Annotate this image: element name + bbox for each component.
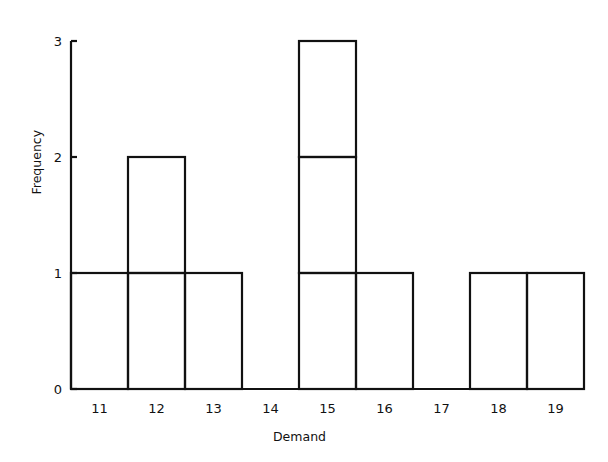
bar-unit-box — [299, 157, 356, 273]
x-tick-label: 13 — [205, 401, 222, 416]
bar-unit-box — [527, 273, 584, 389]
x-tick-label: 12 — [148, 401, 165, 416]
bar-unit-box — [299, 273, 356, 389]
x-tick-labels-group: 111213141516171819 — [91, 401, 564, 416]
y-axis-title: Frequency — [29, 129, 44, 194]
x-tick-label: 16 — [376, 401, 393, 416]
bar-unit-box — [128, 273, 185, 389]
bar-unit-box — [185, 273, 242, 389]
x-axis-title: Demand — [273, 429, 326, 444]
x-tick-label: 18 — [490, 401, 507, 416]
bar-unit-box — [71, 273, 128, 389]
x-tick-label: 11 — [91, 401, 108, 416]
bar-unit-box — [356, 273, 413, 389]
y-ticks-group: 0123 — [54, 34, 77, 397]
histogram-chart: 0123 111213141516171819 Demand Frequency — [0, 0, 608, 462]
x-tick-label: 15 — [319, 401, 336, 416]
bar-unit-box — [299, 41, 356, 157]
bar-unit-box — [470, 273, 527, 389]
bars-group — [71, 41, 584, 389]
y-tick-label: 2 — [54, 150, 62, 165]
x-tick-label: 14 — [262, 401, 279, 416]
x-tick-label: 17 — [433, 401, 450, 416]
y-tick-label: 1 — [54, 266, 62, 281]
bar-unit-box — [128, 157, 185, 273]
y-tick-label: 3 — [54, 34, 62, 49]
axes-group — [71, 41, 584, 389]
x-tick-label: 19 — [547, 401, 564, 416]
y-tick-label: 0 — [54, 382, 62, 397]
